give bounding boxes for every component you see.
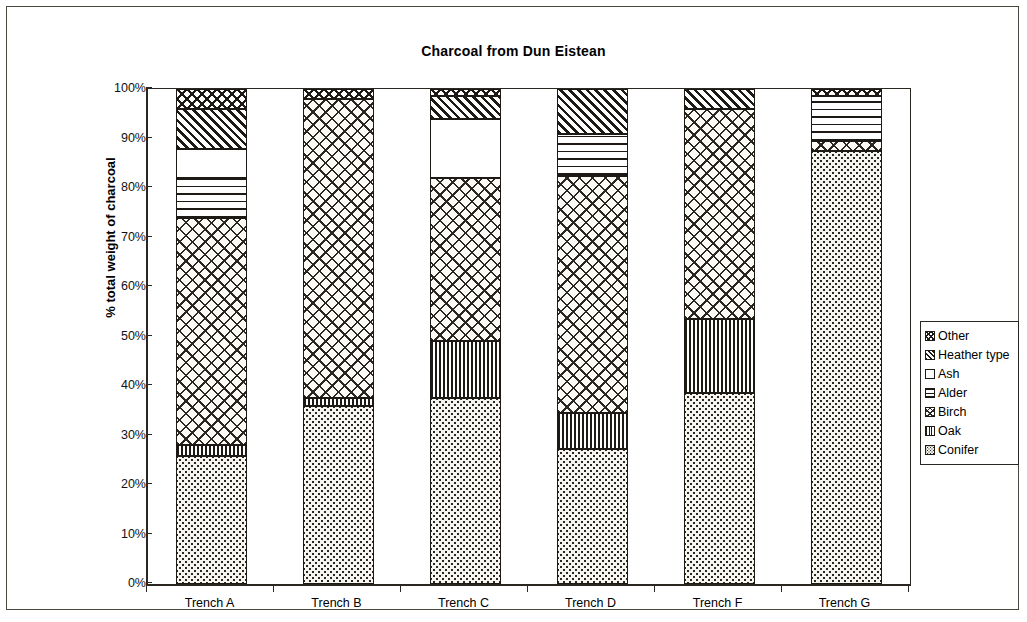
x-axis-label-2: Trench B xyxy=(273,592,400,616)
bar-segment-birch[interactable] xyxy=(811,141,882,151)
bar-segment-birch[interactable] xyxy=(176,218,247,446)
bar-segment-oak[interactable] xyxy=(430,341,501,398)
oak-swatch-icon xyxy=(925,426,935,436)
bar-segment-other[interactable] xyxy=(176,89,247,109)
legend-item-label: Oak xyxy=(938,424,961,438)
bar-segment-birch[interactable] xyxy=(557,176,628,414)
bar-segment-other[interactable] xyxy=(430,89,501,96)
y-tick-label: 70% xyxy=(86,230,146,244)
legend-item-other[interactable]: Other xyxy=(925,326,1015,345)
bar-group-1 xyxy=(148,89,275,584)
legend-item-label: Birch xyxy=(938,405,966,419)
legend-item-label: Conifer xyxy=(938,443,978,457)
bar-segment-conifer[interactable] xyxy=(811,151,882,584)
bar-segment-conifer[interactable] xyxy=(303,406,374,584)
bar-segment-other[interactable] xyxy=(303,89,374,99)
x-tick-mark xyxy=(908,585,909,592)
bar-group-2 xyxy=(275,89,402,584)
bar-segment-heather-type[interactable] xyxy=(557,89,628,134)
bar-segment-oak[interactable] xyxy=(303,398,374,405)
plot-area xyxy=(146,88,911,586)
legend-item-alder[interactable]: Alder xyxy=(925,383,1015,402)
x-tick-mark xyxy=(654,585,655,592)
legend-item-label: Alder xyxy=(938,386,967,400)
ash-swatch-icon xyxy=(925,369,935,379)
x-axis-label-3: Trench C xyxy=(400,592,527,616)
y-tick-label: 60% xyxy=(86,279,146,293)
legend-item-birch[interactable]: Birch xyxy=(925,402,1015,421)
x-axis-category-labels: Trench ATrench BTrench CTrench DTrench F… xyxy=(146,592,908,616)
chart-title: Charcoal from Dun Eistean xyxy=(0,43,1027,59)
stacked-bar[interactable] xyxy=(811,89,882,584)
bar-segment-ash[interactable] xyxy=(176,149,247,178)
y-axis-tick-labels: 0%10%20%30%40%50%60%70%80%90%100% xyxy=(80,88,146,583)
heather-swatch-icon xyxy=(925,350,935,360)
other-swatch-icon xyxy=(925,331,935,341)
stacked-bar[interactable] xyxy=(557,89,628,584)
y-tick-label: 40% xyxy=(86,378,146,392)
y-tick-label: 90% xyxy=(86,131,146,145)
bar-group-6 xyxy=(783,89,910,584)
stacked-bar[interactable] xyxy=(176,89,247,584)
stacked-bar[interactable] xyxy=(430,89,501,584)
bar-segment-alder[interactable] xyxy=(811,96,882,141)
bar-segment-heather-type[interactable] xyxy=(176,109,247,150)
bar-segment-conifer[interactable] xyxy=(557,449,628,584)
legend-item-heather[interactable]: Heather type xyxy=(925,345,1015,364)
bar-segment-birch[interactable] xyxy=(684,109,755,319)
birch-swatch-icon xyxy=(925,407,935,417)
x-tick-mark xyxy=(146,585,147,592)
x-axis-label-5: Trench F xyxy=(654,592,781,616)
bar-segment-oak[interactable] xyxy=(684,319,755,393)
stacked-bar[interactable] xyxy=(684,89,755,584)
stacked-bar[interactable] xyxy=(303,89,374,584)
bar-segment-ash[interactable] xyxy=(430,119,501,178)
bar-group-4 xyxy=(529,89,656,584)
y-tick-label: 80% xyxy=(86,180,146,194)
bar-segment-conifer[interactable] xyxy=(684,393,755,584)
x-tick-mark xyxy=(527,585,528,592)
bar-segment-conifer[interactable] xyxy=(176,456,247,584)
y-tick-label: 30% xyxy=(86,428,146,442)
bar-segment-heather-type[interactable] xyxy=(430,96,501,118)
conifer-swatch-icon xyxy=(925,445,935,455)
legend-item-conifer[interactable]: Conifer xyxy=(925,440,1015,459)
x-tick-mark xyxy=(273,585,274,592)
y-tick-label: 0% xyxy=(86,576,146,590)
legend-item-label: Heather type xyxy=(938,348,1010,362)
bar-segment-oak[interactable] xyxy=(557,413,628,449)
x-axis-label-4: Trench D xyxy=(527,592,654,616)
x-tick-mark xyxy=(781,585,782,592)
legend-item-label: Ash xyxy=(938,367,960,381)
y-tick-label: 100% xyxy=(86,81,146,95)
bar-segment-birch[interactable] xyxy=(430,178,501,341)
x-tick-mark xyxy=(400,585,401,592)
bar-segment-heather-type[interactable] xyxy=(684,89,755,109)
y-tick-label: 10% xyxy=(86,527,146,541)
legend-item-ash[interactable]: Ash xyxy=(925,364,1015,383)
x-axis-label-1: Trench A xyxy=(146,592,273,616)
bar-segment-oak[interactable] xyxy=(176,445,247,456)
bar-segment-alder[interactable] xyxy=(176,178,247,218)
y-tick-label: 20% xyxy=(86,477,146,491)
bar-group-3 xyxy=(402,89,529,584)
bar-segment-birch[interactable] xyxy=(303,99,374,398)
alder-swatch-icon xyxy=(925,388,935,398)
chart-legend: OtherHeather typeAshAlderBirchOakConifer xyxy=(920,321,1019,465)
legend-item-oak[interactable]: Oak xyxy=(925,421,1015,440)
bar-segment-conifer[interactable] xyxy=(430,398,501,584)
bar-segment-other[interactable] xyxy=(811,89,882,96)
x-axis-label-6: Trench G xyxy=(781,592,908,616)
bar-segment-alder[interactable] xyxy=(557,134,628,176)
bars-container xyxy=(148,89,910,584)
y-tick-label: 50% xyxy=(86,329,146,343)
bar-group-5 xyxy=(656,89,783,584)
legend-item-label: Other xyxy=(938,329,969,343)
